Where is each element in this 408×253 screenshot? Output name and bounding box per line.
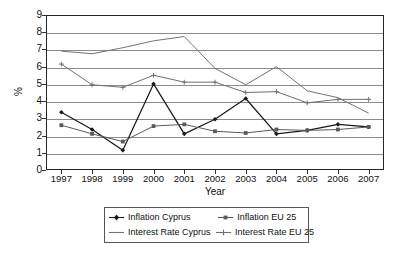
x-tick-mark <box>61 170 62 174</box>
legend-item-interest-rate-eu25[interactable]: Interest Rate EU 25 <box>215 225 305 240</box>
y-tick-mark <box>42 67 46 68</box>
y-tick-label: 0 <box>16 165 42 175</box>
chart-legend: Inflation Cyprus Inflation EU 25 Interes… <box>104 207 309 243</box>
gridline <box>47 102 383 103</box>
y-tick-label: 6 <box>16 62 42 72</box>
gridline <box>47 154 383 155</box>
y-tick-mark <box>42 118 46 119</box>
y-tick-mark <box>42 101 46 102</box>
legend-label: Inflation Cyprus <box>128 212 191 223</box>
legend-swatch-interest-rate-cyprus <box>108 227 125 238</box>
y-tick-label: 2 <box>16 131 42 141</box>
legend-swatch-inflation-cyprus <box>108 212 125 223</box>
gridline <box>47 85 383 86</box>
legend-item-inflation-eu25[interactable]: Inflation EU 25 <box>217 210 305 225</box>
legend-swatch-interest-rate-eu25 <box>215 227 232 238</box>
y-tick-mark <box>42 32 46 33</box>
x-tick-mark <box>369 170 370 174</box>
legend-row: Interest Rate Cyprus Interest Rate EU 25 <box>108 225 305 240</box>
legend-item-interest-rate-cyprus[interactable]: Interest Rate Cyprus <box>108 225 215 240</box>
legend-swatch-inflation-eu25 <box>217 212 234 223</box>
x-tick-mark <box>184 170 185 174</box>
x-tick-mark <box>276 170 277 174</box>
y-tick-label: 9 <box>16 10 42 20</box>
y-tick-mark <box>42 136 46 137</box>
legend-label: Inflation EU 25 <box>237 212 296 223</box>
legend-label: Interest Rate EU 25 <box>235 227 314 238</box>
gridline <box>47 68 383 69</box>
y-tick-label: 3 <box>16 113 42 123</box>
x-axis-title: Year <box>46 186 384 197</box>
y-tick-label: 8 <box>16 27 42 37</box>
legend-label: Interest Rate Cyprus <box>128 227 211 238</box>
y-tick-mark <box>42 49 46 50</box>
x-tick-mark <box>215 170 216 174</box>
x-tick-label: 2007 <box>349 174 389 184</box>
x-tick-mark <box>246 170 247 174</box>
y-tick-label: 4 <box>16 96 42 106</box>
y-tick-label: 5 <box>16 79 42 89</box>
gridline <box>47 137 383 138</box>
x-tick-mark <box>154 170 155 174</box>
y-tick-label: 7 <box>16 44 42 54</box>
y-tick-mark <box>42 153 46 154</box>
x-tick-mark <box>338 170 339 174</box>
legend-item-inflation-cyprus[interactable]: Inflation Cyprus <box>108 210 217 225</box>
chart-figure: % 0123456789 199719981999200020012002200… <box>0 0 408 253</box>
gridline <box>47 50 383 51</box>
gridline <box>47 119 383 120</box>
x-tick-mark <box>307 170 308 174</box>
y-tick-mark <box>42 84 46 85</box>
y-tick-mark <box>42 15 46 16</box>
y-tick-label: 1 <box>16 148 42 158</box>
x-tick-mark <box>92 170 93 174</box>
y-tick-mark <box>42 170 46 171</box>
plot-area <box>46 15 384 170</box>
x-tick-mark <box>123 170 124 174</box>
legend-row: Inflation Cyprus Inflation EU 25 <box>108 210 305 225</box>
gridline <box>47 33 383 34</box>
